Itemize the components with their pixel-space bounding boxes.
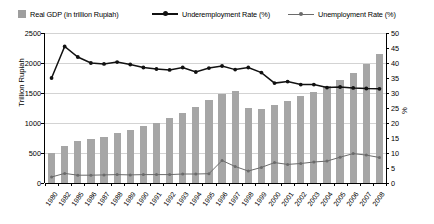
data-point-marker: 1990: 2.8% [142, 173, 145, 176]
data-point-marker: 1996: 7.5% [221, 159, 224, 162]
y-axis-left-title: Trillion Rupiah [17, 35, 26, 131]
y-axis-right-tick-label: 15 [391, 134, 425, 143]
x-axis-tick [347, 183, 348, 186]
data-point-marker: 1988: 40.3% [115, 60, 119, 64]
data-point-marker: 1994: 37% [194, 70, 198, 74]
data-point-marker: 2007: 31.5% [364, 87, 368, 91]
bar-swatch-icon [18, 10, 26, 18]
x-axis-tick [189, 183, 190, 186]
line-path [52, 47, 380, 89]
y-axis-right-tick [386, 78, 389, 79]
x-axis-tick [268, 183, 269, 186]
y-axis-left-tick-label: 1500 [1, 89, 41, 98]
data-point-marker: 1982: 45.5% [63, 45, 67, 49]
y-axis-left-tick-label: 2000 [1, 59, 41, 68]
chart-legend: Real GDP (in trillion Rupiah) Underemplo… [0, 0, 434, 26]
line-marker-icon [152, 10, 178, 18]
y-axis-right-tick-label: 25 [391, 104, 425, 113]
legend-label-unemployment: Unemployment Rate (%) [318, 10, 396, 19]
y-axis-right-tick [386, 123, 389, 124]
y-axis-right-tick-label: 40 [391, 59, 425, 68]
x-axis-tick [242, 183, 243, 186]
x-axis-tick [229, 183, 230, 186]
data-point-marker: 2001: 6.2% [286, 163, 289, 166]
data-point-marker: 1993: 3% [181, 173, 184, 176]
x-axis-tick [71, 183, 72, 186]
data-point-marker: 1988: 2.8% [116, 173, 119, 176]
data-point-marker: 2003: 32.8% [312, 83, 316, 87]
data-point-marker: 2005: 32% [338, 85, 342, 89]
x-axis-tick [163, 183, 164, 186]
data-point-marker: 1980: 35% [50, 76, 54, 80]
y-axis-right-tick [386, 93, 389, 94]
y-axis-right-tick [386, 63, 389, 64]
y-axis-right-tick-label: 45 [391, 44, 425, 53]
x-axis-tick [255, 183, 256, 186]
x-axis-tick [373, 183, 374, 186]
data-point-marker: 1985: 2.6% [76, 174, 79, 177]
data-point-marker: 2005: 8.6% [339, 156, 342, 159]
data-point-marker: 1982: 3.2% [63, 172, 66, 175]
y-axis-left-tick-label: 1000 [1, 119, 41, 128]
data-point-marker: 1992: 37.7% [168, 68, 172, 72]
y-axis-left-tick [41, 63, 44, 64]
line-path [52, 154, 380, 177]
y-axis-right-tick-label: 20 [391, 119, 425, 128]
y-axis-right-tick-label: 0 [391, 179, 425, 188]
data-point-marker: 2002: 6.5% [299, 162, 302, 165]
data-point-marker: 1995: 3.1% [207, 172, 210, 175]
y-axis-right-tick [386, 153, 389, 154]
y-axis-left-tick [41, 33, 44, 34]
data-point-marker: 1991: 38% [155, 67, 159, 71]
y-axis-left-tick [41, 93, 44, 94]
y-axis-right-tick-label: 10 [391, 149, 425, 158]
data-point-marker: 1998: 4% [247, 170, 250, 173]
data-point-marker: 1994: 3% [194, 173, 197, 176]
x-axis-tick [137, 183, 138, 186]
data-point-marker: 2006: 31.7% [351, 86, 355, 90]
x-axis-tick [45, 183, 46, 186]
y-axis-right-tick [386, 183, 389, 184]
y-axis-left-tick-label: 2500 [1, 29, 41, 38]
data-point-marker: 2000: 6.8% [273, 161, 276, 164]
legend-label-underemployment: Underemployment Rate (%) [182, 10, 270, 19]
data-point-marker: 1993: 38.5% [181, 66, 185, 70]
x-axis-tick [334, 183, 335, 186]
legend-item-unemployment: Unemployment Rate (%) [288, 7, 396, 21]
data-point-marker: 2001: 33.8% [286, 80, 290, 84]
data-point-marker: 2004: 7.3% [325, 160, 328, 163]
data-point-marker: 1997: 5.5% [234, 165, 237, 168]
y-axis-right-tick [386, 48, 389, 49]
y-axis-right-tick [386, 108, 389, 109]
data-point-marker: 1987: 39.7% [102, 62, 106, 66]
legend-item-underemployment: Underemployment Rate (%) [152, 7, 270, 21]
y-axis-right-tick [386, 33, 389, 34]
y-axis-left-tick-label: 0 [1, 179, 41, 188]
plot-area: 1980: 35%1982: 45.5%1985: 42%1986: 40%19… [44, 33, 387, 183]
legend-label-real-gdp: Real GDP (in trillion Rupiah) [30, 10, 119, 19]
data-point-marker: 2003: 7% [312, 161, 315, 164]
data-point-marker: 1989: 2.7% [129, 173, 132, 176]
y-axis-right-tick-label: 50 [391, 29, 425, 38]
data-point-marker: 1998: 38.5% [246, 66, 250, 70]
data-point-marker: 1995: 38.3% [207, 66, 211, 70]
x-axis-tick [320, 183, 321, 186]
x-axis-tick [360, 183, 361, 186]
y-axis-left-tick-label: 500 [1, 149, 41, 158]
x-axis-tick [202, 183, 203, 186]
y-axis-right-tick [386, 168, 389, 169]
data-point-marker: 2007: 9.3% [365, 154, 368, 157]
legend-item-real-gdp: Real GDP (in trillion Rupiah) [18, 7, 119, 21]
y-axis-right-tick-label: 5 [391, 164, 425, 173]
line-series-group: 1980: 35%1982: 45.5%1985: 42%1986: 40%19… [45, 33, 386, 183]
data-point-marker: 1989: 39.5% [128, 63, 132, 67]
data-point-marker: 1999: 36.8% [260, 71, 264, 75]
data-point-marker: 1992: 2.8% [168, 173, 171, 176]
x-axis-tick [124, 183, 125, 186]
data-point-marker: 1991: 2.8% [155, 173, 158, 176]
y-axis-left-tick [41, 183, 44, 184]
x-axis-tick [97, 183, 98, 186]
x-axis-tick [307, 183, 308, 186]
data-point-marker: 2002: 32.8% [299, 83, 303, 87]
data-point-marker: 2000: 33.3% [273, 81, 277, 85]
